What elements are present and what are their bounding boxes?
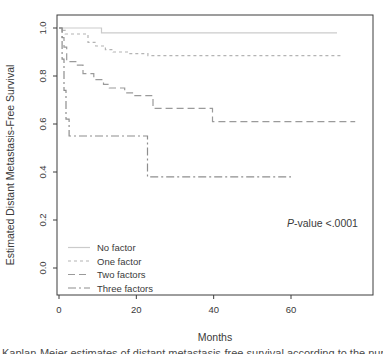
plot-box	[57, 15, 373, 295]
x-tick-label: 60	[286, 304, 297, 315]
y-axis-title: Estimated Distant Metastasis-Free Surviv…	[4, 65, 16, 266]
x-tick-label: 40	[208, 304, 219, 315]
survival-figure: 02040600.00.20.40.60.81.0No factorOne fa…	[0, 0, 383, 354]
x-tick-label: 20	[131, 304, 142, 315]
x-axis-title: Months	[198, 331, 232, 343]
km-survival-chart: 02040600.00.20.40.60.81.0No factorOne fa…	[0, 0, 383, 354]
caption-cropped: Kaplan-Meier estimates of distant metast…	[2, 347, 383, 354]
y-tick-label: 1.0	[37, 21, 48, 34]
y-tick-label: 0.0	[37, 261, 48, 274]
curve-two-factors	[59, 28, 355, 122]
legend-label-one-factor: One factor	[97, 256, 141, 267]
curve-three-factors	[59, 28, 291, 177]
y-tick-label: 0.4	[37, 165, 48, 178]
y-tick-label: 0.8	[37, 69, 48, 82]
y-tick-label: 0.2	[37, 213, 48, 226]
legend-label-two-factors: Two factors	[97, 269, 146, 280]
curve-no-factor	[59, 28, 337, 33]
x-tick-label: 0	[56, 304, 61, 315]
p-value-annotation: P-value <.0001	[287, 217, 358, 229]
legend-label-no-factor: No factor	[97, 242, 136, 253]
y-tick-label: 0.6	[37, 117, 48, 130]
legend-label-three-factors: Three factors	[97, 283, 153, 294]
